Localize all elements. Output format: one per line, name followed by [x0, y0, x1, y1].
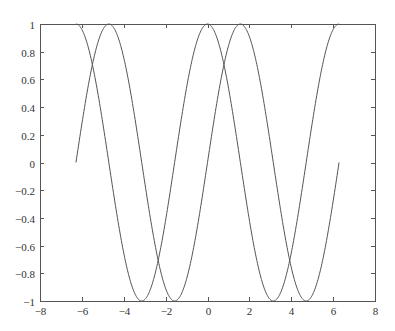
y-tick-label: 0.2	[21, 130, 35, 142]
x-tick-label: −4	[119, 305, 131, 317]
y-tick-label: 0.8	[21, 47, 35, 59]
chart-canvas: −8−6−4−202468 10.80.60.40.20−0.2−0.4−0.6…	[0, 0, 395, 331]
y-tick-label: −1	[23, 296, 35, 308]
y-axis: 10.80.60.40.20−0.2−0.4−0.6−0.8−1	[15, 19, 375, 308]
x-tick-label: 8	[373, 305, 379, 317]
x-tick-label: 2	[247, 305, 253, 317]
y-tick-label: 0.4	[21, 102, 35, 114]
y-tick-label: −0.4	[15, 213, 35, 225]
y-tick-label: 1	[30, 19, 36, 31]
x-tick-label: 0	[206, 305, 212, 317]
series-line-sin	[76, 24, 339, 301]
y-tick-label: 0.6	[21, 74, 35, 86]
plot-area-box	[41, 25, 376, 302]
y-tick-label: −0.8	[15, 268, 35, 280]
series-layer	[76, 24, 339, 301]
y-tick-label: −0.6	[15, 241, 35, 253]
x-tick-label: −6	[77, 305, 89, 317]
x-tick-label: −2	[161, 305, 173, 317]
x-tick-label: 6	[331, 305, 337, 317]
x-tick-label: −8	[35, 305, 47, 317]
x-tick-label: 4	[289, 305, 295, 317]
y-tick-label: −0.2	[15, 185, 35, 197]
y-tick-label: 0	[30, 158, 36, 170]
line-chart-figure: −8−6−4−202468 10.80.60.40.20−0.2−0.4−0.6…	[0, 0, 395, 331]
